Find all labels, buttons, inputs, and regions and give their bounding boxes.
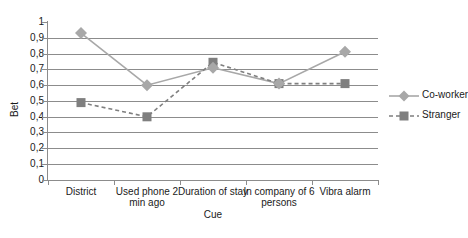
plot-area <box>48 22 378 180</box>
y-tick-label: 0,1 <box>4 159 44 169</box>
x-tick-mark <box>378 180 379 185</box>
legend-label: Stranger <box>422 109 460 121</box>
y-tick-label: 0,8 <box>4 49 44 59</box>
y-axis-line <box>47 21 48 181</box>
y-tick-label: 0,9 <box>4 33 44 43</box>
gridline <box>48 148 378 149</box>
gridline <box>48 117 378 118</box>
x-tick-mark <box>114 180 115 185</box>
x-tick-label: Duration of stay <box>177 186 249 197</box>
gridline <box>48 54 378 55</box>
x-axis-line <box>47 180 379 181</box>
gridline <box>48 85 378 86</box>
x-tick-mark <box>246 180 247 185</box>
x-axis-title: Cue <box>177 209 249 220</box>
x-tick-mark <box>180 180 181 185</box>
gridline <box>48 69 378 70</box>
legend-label: Co-worker <box>422 89 468 101</box>
y-tick-label: 0,6 <box>4 80 44 90</box>
legend-item-stranger[interactable]: Stranger <box>388 106 460 126</box>
gridline <box>48 101 378 102</box>
x-tick-label: Vibra alarm <box>309 186 381 197</box>
y-axis-title: Bet <box>9 90 20 130</box>
y-tick-label: 0,7 <box>4 64 44 74</box>
gridline <box>48 164 378 165</box>
y-tick-label: 0,2 <box>4 143 44 153</box>
y-tick-label: 0 <box>4 175 44 185</box>
y-tick-label: 1 <box>4 17 44 27</box>
chart-legend: Co-worker Stranger <box>388 86 460 126</box>
gridline <box>48 38 378 39</box>
legend-marker-square-icon <box>388 106 420 126</box>
x-tick-label: District <box>45 186 117 197</box>
gridline <box>48 132 378 133</box>
y-axis-tick-labels: 1 0,9 0,8 0,7 0,6 0,5 0,4 0,3 0,2 0,1 0 <box>0 0 44 238</box>
legend-item-co-worker[interactable]: Co-worker <box>388 86 460 106</box>
x-tick-mark <box>312 180 313 185</box>
legend-marker-diamond-icon <box>388 86 420 106</box>
x-tick-label: In company of 6 persons <box>243 186 315 208</box>
x-tick-mark <box>48 180 49 185</box>
x-tick-label: Used phone 2 min ago <box>111 186 183 208</box>
